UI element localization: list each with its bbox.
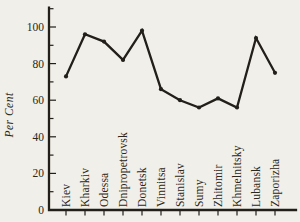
data-point [235, 105, 239, 109]
data-point [159, 87, 163, 91]
line-chart: 020406080100 KievKharkivOdessaDnipropetr… [0, 0, 300, 222]
data-point [64, 74, 68, 78]
y-tick-label: 20 [33, 167, 45, 179]
scanned-chart-figure: 020406080100 KievKharkivOdessaDnipropetr… [0, 0, 300, 222]
data-point [273, 71, 277, 75]
category-label: Zhitomir [212, 165, 224, 208]
data-point [178, 98, 182, 102]
y-tick-label: 100 [27, 21, 45, 33]
y-tick-label: 0 [38, 204, 44, 216]
category-label: Kharkiv [79, 168, 91, 207]
category-label: Zaporizha [269, 159, 282, 207]
y-tick-label: 80 [33, 58, 45, 70]
category-label: Odessa [98, 173, 110, 207]
category-label: Vinnitsa [155, 167, 167, 207]
category-label: Khmelnitsky [231, 145, 244, 207]
data-point [102, 40, 106, 44]
y-tick-label: 40 [33, 131, 45, 143]
category-label: Lubansk [250, 166, 262, 207]
data-point [197, 105, 201, 109]
data-point [254, 36, 258, 40]
y-tick-label: 60 [33, 94, 45, 106]
data-point [121, 58, 125, 62]
data-point [216, 96, 220, 100]
category-label: Dnipropetrovsk [117, 132, 130, 207]
category-label: Stanislav [174, 163, 186, 207]
y-axis-title: Per Cent [3, 92, 15, 139]
category-label: Sumy [193, 179, 206, 207]
category-label: Kiev [60, 184, 72, 207]
data-point [140, 29, 144, 33]
category-label: Donetsk [136, 167, 148, 207]
data-point [83, 32, 87, 36]
